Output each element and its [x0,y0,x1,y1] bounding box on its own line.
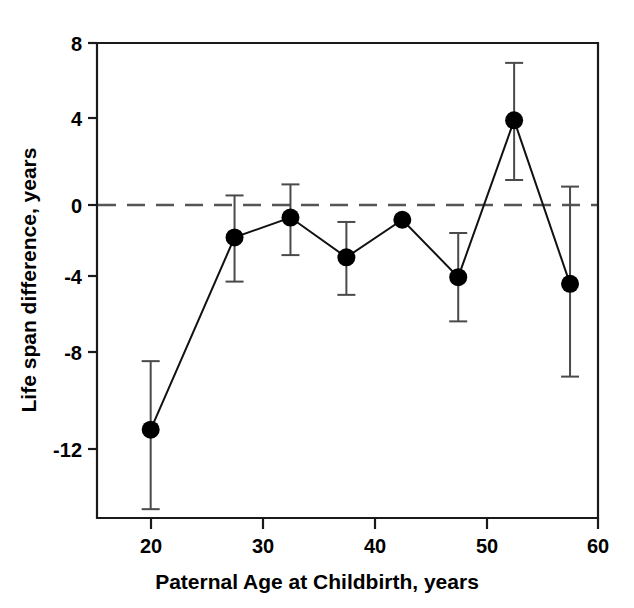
data-point-marker [393,211,411,229]
x-axis-title: Paternal Age at Childbirth, years [155,570,479,593]
x-axis-ticks [151,518,598,529]
data-point-marker [561,275,579,293]
data-point-marker [337,248,355,266]
data-point-marker [505,111,523,129]
y-axis-title: Life span difference, years [17,148,40,413]
error-bars [142,63,579,509]
data-point-marker [449,268,467,286]
x-tick-label-30: 30 [252,535,274,557]
data-point-marker [142,421,160,439]
data-point-marker [226,228,244,246]
x-axis-tick-labels: 20 30 40 50 60 [140,535,609,557]
plot-frame [97,43,598,518]
y-axis-tick-labels: 8 4 0 -4 -8 -12 [53,33,83,461]
y-tick-label-0: 0 [71,195,82,217]
y-tick-label-4: 4 [71,108,83,130]
life-span-difference-chart: 8 4 0 -4 -8 -12 20 30 40 50 60 Paternal … [0,0,634,608]
y-tick-label-neg4: -4 [64,266,83,288]
x-tick-label-50: 50 [476,535,498,557]
x-tick-label-60: 60 [587,535,609,557]
data-point-marker [281,209,299,227]
y-tick-label-8: 8 [71,33,82,55]
y-axis-ticks [88,43,97,449]
y-tick-label-neg8: -8 [64,342,82,364]
x-tick-label-20: 20 [140,535,162,557]
y-tick-label-neg12: -12 [53,439,82,461]
chart-canvas: 8 4 0 -4 -8 -12 20 30 40 50 60 Paternal … [0,0,634,608]
series-line [151,120,570,429]
x-tick-label-40: 40 [364,535,386,557]
